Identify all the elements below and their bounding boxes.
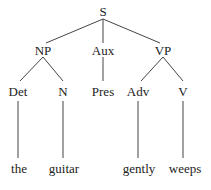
edge-vp-adv: [141, 57, 163, 81]
edge-s-np: [46, 19, 103, 43]
node-aux: Aux: [92, 44, 114, 57]
node-det: Det: [9, 85, 28, 98]
node-pres: Pres: [92, 85, 114, 98]
node-n: N: [58, 85, 67, 98]
node-adv: Adv: [127, 85, 149, 98]
leaf-guitar: guitar: [49, 162, 79, 175]
node-np: NP: [35, 44, 52, 57]
edge-np-det: [20, 57, 43, 81]
edge-s-vp: [103, 19, 160, 43]
node-s: S: [99, 5, 106, 18]
edge-vp-v: [163, 57, 183, 81]
leaf-weeps: weeps: [169, 162, 202, 175]
node-vp: VP: [155, 44, 172, 57]
leaf-gently: gently: [123, 162, 156, 175]
edge-np-n: [43, 57, 63, 81]
leaf-the: the: [11, 162, 27, 175]
node-v: V: [178, 85, 187, 98]
